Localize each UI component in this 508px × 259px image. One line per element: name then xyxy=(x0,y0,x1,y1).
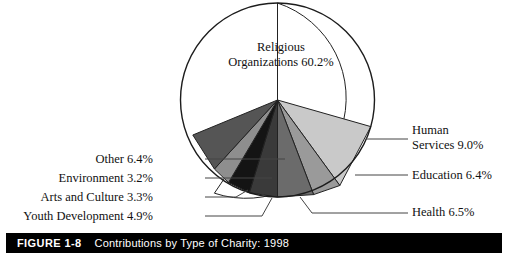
leader-line-youth xyxy=(205,198,272,216)
figure-caption-bar: FIGURE 1-8 Contributions by Type of Char… xyxy=(6,233,502,253)
pie-center-label-religious-organizations: Religious Organizations 60.2% xyxy=(196,40,366,70)
callout-arts-and-culture: Arts and Culture 3.3% xyxy=(41,190,153,205)
callout-health: Health 6.5% xyxy=(412,205,474,220)
pie-slices xyxy=(193,3,371,198)
callout-education: Education 6.4% xyxy=(412,168,492,183)
figure-number-label: FIGURE 1-8 xyxy=(17,237,82,249)
callout-other: Other 6.4% xyxy=(95,152,153,167)
callout-youth-development: Youth Development 4.9% xyxy=(23,209,153,224)
callout-human-services: Human Services 9.0% xyxy=(412,123,484,152)
figure-caption-text: Contributions by Type of Charity: 1998 xyxy=(95,237,290,249)
leader-line-health xyxy=(300,197,408,213)
figure-container: Religious Organizations 60.2% Human Serv… xyxy=(0,0,508,259)
callout-environment: Environment 3.2% xyxy=(59,171,153,186)
